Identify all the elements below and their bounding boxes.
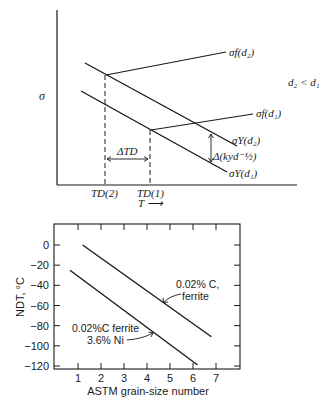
annotation-lower-line1: 0.02%C ferrite (72, 322, 139, 334)
plot-frame (54, 224, 240, 369)
annotation-upper-pointer (164, 294, 181, 302)
x-tick-label: 3 (121, 372, 127, 384)
annotation-upper-line2: ferrite (182, 290, 209, 302)
ndt-chart: 1234567 0−20−40−60−80−100−120 0.02% C,fe… (14, 224, 240, 397)
delta-td-label: ΔTD (116, 145, 138, 157)
y-axis-label: NDT, °C (14, 277, 26, 317)
sigma-axis-label: σ (39, 89, 46, 103)
y-tick-label: −60 (30, 300, 49, 312)
annotation-lower-line2: 3.6% Ni (87, 334, 124, 346)
y-tick-label: −100 (24, 340, 49, 352)
y-tick-label: 0 (43, 239, 49, 251)
condition-label: d₂ < d₁ (288, 76, 320, 88)
y-tick-label: −20 (30, 259, 49, 271)
x-tick-label: 7 (213, 372, 219, 384)
sigma-y-d1-label: σY(d₁) (229, 167, 258, 180)
y-tick-label: −40 (30, 279, 49, 291)
td1-label: TD(1) (137, 187, 164, 200)
top-diagram (57, 10, 297, 185)
x-tick-label: 1 (75, 372, 81, 384)
annotation-upper-line1: 0.02% C, (176, 278, 219, 290)
figure: σ T ⟶ d₂ < d₁ σf(d₂) σf(d₁) σY(d₂) Δ(kyd… (0, 0, 335, 409)
x-tick-label: 4 (144, 372, 150, 384)
sigma-f-d2-label: σf(d₂) (229, 46, 254, 59)
td2-label: TD(2) (91, 187, 118, 200)
delta-k-label: Δ(kyd⁻½) (212, 150, 257, 163)
x-ticks: 1234567 (75, 224, 219, 384)
sigma-y-d1-line (81, 91, 227, 172)
sigma-f-d2-line (106, 52, 226, 75)
x-tick-label: 5 (167, 372, 173, 384)
y-tick-label: −120 (24, 360, 49, 372)
annotation-lower-pointer (127, 333, 153, 340)
y-ticks: 0−20−40−60−80−100−120 (24, 239, 240, 372)
x-tick-label: 6 (190, 372, 196, 384)
sigma-y-d2-label: σY(d₂) (232, 134, 261, 147)
sigma-f-d1-label: σf(d₁) (256, 107, 281, 120)
sigma-y-d2-line (85, 63, 237, 146)
y-tick-label: −80 (30, 320, 49, 332)
series-lines (70, 245, 211, 365)
x-tick-label: 2 (98, 372, 104, 384)
x-axis-label: ASTM grain-size number (87, 385, 209, 397)
delta-td-arrow (107, 157, 148, 162)
